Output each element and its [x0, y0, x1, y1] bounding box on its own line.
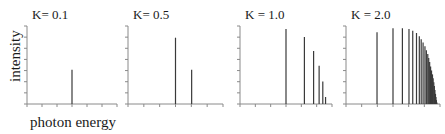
panel-4: K = 2.0: [343, 7, 440, 107]
panel-title: K= 0.1: [32, 7, 68, 22]
panel-2: K= 0.5: [125, 7, 223, 107]
panel-1: K= 0.1: [24, 7, 117, 107]
panel-title: K = 2.0: [351, 7, 390, 22]
figure: intensity photon energy K= 0.1K= 0.5K = …: [0, 0, 445, 134]
x-axis-label: photon energy: [30, 114, 116, 130]
panel-title: K= 0.5: [133, 7, 169, 22]
panel-title: K = 1.0: [245, 7, 284, 22]
y-axis-label: intensity: [7, 30, 23, 82]
panel-3: K = 1.0: [237, 7, 332, 107]
panels: K= 0.1K= 0.5K = 1.0K = 2.0: [24, 7, 440, 107]
